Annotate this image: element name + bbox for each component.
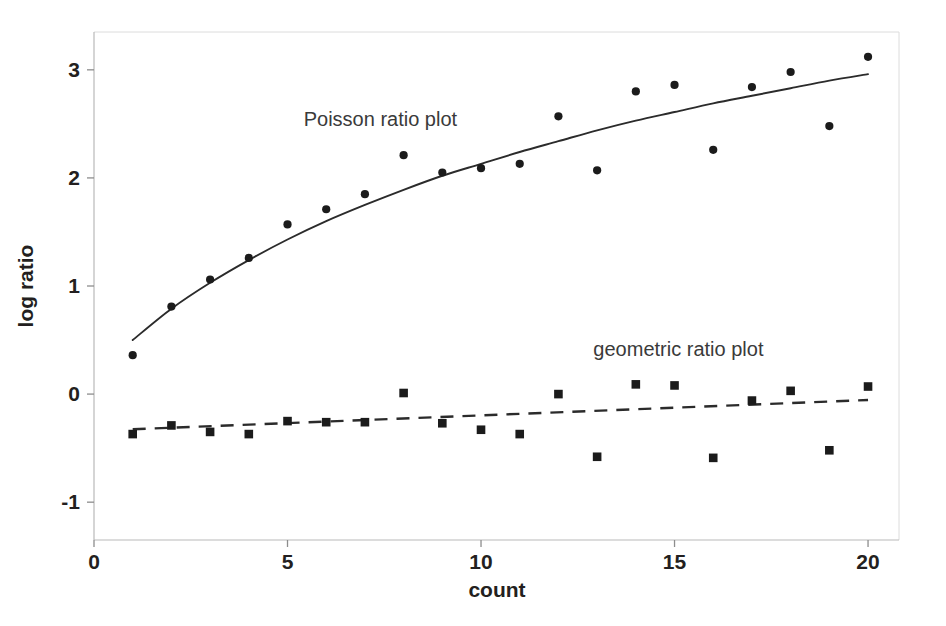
data-point-circle [322, 205, 330, 213]
data-point-circle [245, 254, 253, 262]
data-point-circle [167, 302, 175, 310]
data-point-circle [825, 122, 833, 130]
series-annotation-geometric: geometric ratio plot [593, 338, 764, 360]
y-tick-label: 1 [68, 274, 80, 297]
data-point-circle [787, 68, 795, 76]
x-tick-label: 10 [469, 550, 492, 573]
data-point-circle [748, 83, 756, 91]
data-point-circle [361, 190, 369, 198]
y-tick-label: 2 [68, 166, 80, 189]
chart-background [0, 0, 946, 626]
data-point-circle [400, 151, 408, 159]
data-point-square [670, 381, 679, 390]
data-point-square [515, 430, 524, 439]
data-point-square [206, 428, 215, 437]
chart-container: -10123 05101520 Poisson ratio plotgeomet… [0, 0, 946, 626]
y-tick-label: -1 [61, 490, 80, 513]
data-point-square [748, 396, 757, 405]
log-ratio-scatter-chart: -10123 05101520 Poisson ratio plotgeomet… [0, 0, 946, 626]
y-tick-label: 3 [68, 58, 80, 81]
data-point-square [399, 389, 408, 398]
data-point-square [322, 418, 331, 427]
data-point-square [283, 417, 292, 426]
y-axis-title: log ratio [14, 245, 37, 328]
data-point-circle [206, 275, 214, 283]
data-point-square [128, 430, 137, 439]
data-point-square [245, 430, 254, 439]
series-annotation-poisson: Poisson ratio plot [304, 108, 458, 130]
x-tick-label: 5 [282, 550, 294, 573]
data-point-circle [438, 168, 446, 176]
x-tick-label: 20 [856, 550, 879, 573]
data-point-square [167, 421, 176, 430]
data-point-circle [670, 81, 678, 89]
data-point-circle [554, 112, 562, 120]
data-point-square [438, 419, 447, 428]
data-point-square [477, 425, 486, 434]
data-point-square [593, 452, 602, 461]
x-tick-label: 0 [88, 550, 100, 573]
data-point-square [864, 382, 873, 391]
data-point-square [709, 454, 718, 463]
data-point-circle [864, 53, 872, 61]
x-axis-title: count [468, 578, 525, 601]
data-point-circle [477, 164, 485, 172]
x-tick-label: 15 [663, 550, 687, 573]
data-point-circle [632, 87, 640, 95]
data-point-square [632, 380, 641, 389]
data-point-square [554, 390, 563, 399]
data-point-circle [593, 166, 601, 174]
data-point-circle [709, 146, 717, 154]
data-point-circle [516, 160, 524, 168]
data-point-square [361, 418, 370, 427]
data-point-circle [283, 220, 291, 228]
data-point-square [786, 387, 795, 396]
data-point-circle [129, 351, 137, 359]
y-tick-label: 0 [68, 382, 80, 405]
data-point-square [825, 446, 834, 455]
